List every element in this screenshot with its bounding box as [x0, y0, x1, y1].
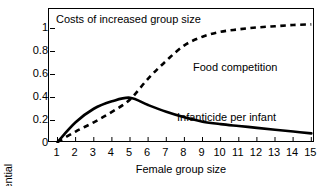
y-tick-label: 0.8	[4, 45, 48, 56]
x-tick-marks	[58, 137, 312, 142]
x-axis-label: Female group size	[48, 163, 314, 176]
y-tick-label: 1	[4, 22, 48, 33]
plot-area: Costs of increased group size	[48, 8, 314, 142]
annotation-infanticide-per-infant: Infanticide per infant	[177, 111, 276, 124]
y-tick-label: 0	[4, 137, 48, 148]
y-tick-label: 0.6	[4, 68, 48, 79]
series-food-competition	[58, 24, 312, 142]
annotation-food-competition: Food competition	[193, 61, 277, 74]
chart-figure: Lost reproductive potential 1 0.8 0.6 0.…	[0, 0, 326, 186]
x-tick-label: 15	[298, 146, 322, 158]
y-tick-marks	[50, 29, 55, 121]
y-tick-label: 0.2	[4, 114, 48, 125]
y-axis-label: Lost reproductive potential	[1, 152, 15, 186]
y-tick-label: 0.4	[4, 91, 48, 102]
